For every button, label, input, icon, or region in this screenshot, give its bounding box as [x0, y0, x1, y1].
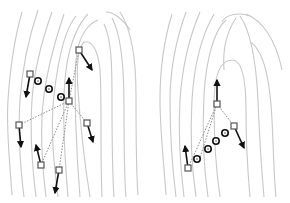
- minutia-marker: [76, 47, 82, 53]
- left-ridge-count-circles: [35, 78, 64, 100]
- minutia-marker: [27, 71, 33, 77]
- minutia-marker: [185, 165, 191, 171]
- right-minutiae: [185, 101, 237, 171]
- right-ridge-pattern: [160, 12, 282, 197]
- left-ridge-pattern: [7, 10, 138, 197]
- central-minutia-marker: [66, 98, 72, 104]
- right-ridge-count-circles: [194, 130, 228, 162]
- minutia-marker: [16, 122, 22, 128]
- minutia-marker: [231, 123, 237, 129]
- minutia-marker: [38, 162, 44, 168]
- minutia-marker: [56, 167, 62, 173]
- central-minutia-marker: [214, 101, 220, 107]
- minutia-marker: [84, 120, 90, 126]
- fingerprint-minutiae-figure: [0, 0, 290, 203]
